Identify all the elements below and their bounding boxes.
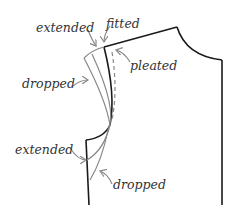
extended-shoulder-curve bbox=[84, 47, 104, 58]
label-extended-bottom: extended bbox=[15, 142, 73, 157]
fitted-armhole bbox=[86, 47, 112, 140]
dropped-armhole bbox=[90, 54, 111, 180]
arrow-dropped-bottom bbox=[100, 171, 112, 184]
label-fitted: fitted bbox=[105, 16, 140, 31]
side-seam bbox=[86, 140, 89, 205]
label-extended-top: extended bbox=[36, 20, 94, 35]
arrow-pleated bbox=[116, 50, 130, 62]
arrow-dropped-top bbox=[73, 80, 88, 86]
label-pleated: pleated bbox=[130, 58, 177, 73]
label-dropped-top: dropped bbox=[22, 76, 75, 91]
bodice-diagram: extended fitted pleated dropped extended… bbox=[0, 0, 237, 214]
extended-armhole bbox=[84, 58, 110, 160]
armhole-variants bbox=[84, 47, 115, 180]
neckline bbox=[177, 27, 222, 60]
label-dropped-bottom: dropped bbox=[113, 177, 166, 192]
